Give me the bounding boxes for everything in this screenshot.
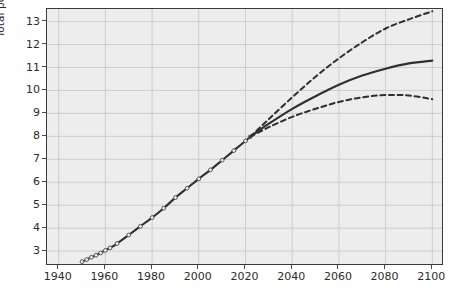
data-point-marker (85, 258, 89, 262)
y-tick-label: 4 (10, 221, 40, 234)
data-point-marker (232, 149, 236, 153)
data-point-marker (174, 196, 178, 200)
x-tick-mark (244, 265, 245, 269)
series-line (82, 137, 250, 262)
y-tick-label: 6 (10, 175, 40, 188)
y-tick-label: 3 (10, 244, 40, 257)
x-tick-mark (291, 265, 292, 269)
y-tick-label: 7 (10, 152, 40, 165)
data-point-marker (244, 139, 248, 143)
x-tick-mark (431, 265, 432, 269)
y-tick-label: 13 (10, 14, 40, 27)
data-point-marker (162, 206, 166, 210)
data-point-marker (99, 251, 103, 255)
data-series-group (47, 9, 443, 265)
data-point-marker (139, 224, 143, 228)
y-tick-label: 11 (10, 60, 40, 73)
x-tick-mark (57, 265, 58, 269)
x-tick-mark (151, 265, 152, 269)
data-point-marker (103, 249, 107, 253)
data-point-marker (108, 246, 112, 250)
data-point-marker (115, 242, 119, 246)
data-point-marker (94, 253, 98, 257)
plot-area (46, 8, 443, 265)
x-tick-mark (104, 265, 105, 269)
y-axis-tick-labels: 345678910111213 (0, 0, 40, 300)
data-point-marker (150, 216, 154, 220)
x-tick-mark (197, 265, 198, 269)
x-tick-label: 2100 (401, 270, 461, 283)
data-point-marker (185, 186, 189, 190)
data-point-marker (89, 255, 93, 259)
y-tick-label: 8 (10, 129, 40, 142)
series-line (250, 95, 432, 137)
data-point-marker (80, 260, 84, 264)
y-tick-label: 10 (10, 83, 40, 96)
x-tick-mark (337, 265, 338, 269)
data-point-marker (127, 233, 131, 237)
data-point-marker (220, 158, 224, 162)
series-line (250, 61, 432, 137)
population-projection-chart: Total population (billions) 345678910111… (0, 0, 465, 300)
data-point-marker (197, 177, 201, 181)
y-tick-label: 12 (10, 37, 40, 50)
y-tick-label: 9 (10, 106, 40, 119)
data-point-marker (209, 168, 213, 172)
y-tick-label: 5 (10, 198, 40, 211)
x-tick-mark (384, 265, 385, 269)
